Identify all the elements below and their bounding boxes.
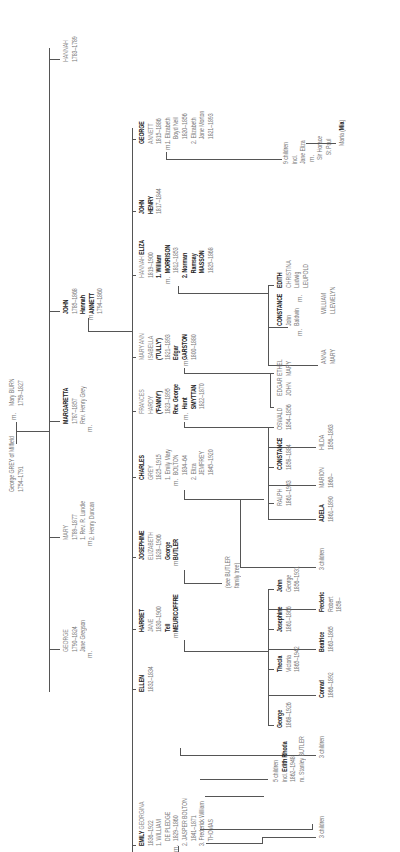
founder-mary-burn: Mary BURN 1759–1827	[8, 379, 25, 406]
child-josephine-1861: Josephine 1861–1866	[276, 606, 293, 632]
person-john-1785: JOHN 1785–1868 Hannah ANNETT 1794–1860	[62, 288, 105, 314]
emily-children-second-marriage: 5 children incl. Edith Rhoda 1862–1948 m…	[272, 736, 306, 782]
person-charles-grey: CHARLES GREY 1825–1915 1. Emily Mary BOL…	[138, 449, 215, 480]
emily-children-first-marriage: 3 children	[318, 736, 327, 758]
butler-tree-reference: (see BUTLER family tree)	[224, 556, 241, 588]
person-george-1790: GEORGE 1790–1824 Jane Gregson	[62, 620, 88, 652]
person-george-annett: GEORGE ANNETT 1815–1886 1. Elizabeth Boy…	[138, 111, 215, 144]
child-ralph: RALPH 1861–1943	[276, 480, 293, 506]
marriage-line	[16, 422, 17, 444]
maria-mia: Maria (Mia)	[338, 120, 347, 146]
gen2-sibling-bar	[132, 134, 133, 852]
person-frances-hardy: FRANCES HARDY ('FANNY') 1823–1895 Rev. G…	[138, 384, 207, 414]
person-hannah-1783: HANNAH 1783–1789	[62, 36, 79, 62]
child-william-llewelyn: WILLIAM LLEWELYN	[320, 287, 337, 314]
family-tree-diagram: George GREY of Milfield 1754–1791 m. Mar…	[0, 0, 400, 852]
person-mary-1789: MARY 1789–1877 1. Rev. R. Lundie 2. Henr…	[62, 501, 96, 540]
sir-horace-st-paul: Sir Horace St Paul	[316, 136, 333, 160]
child-oswald: OSWALD 1854–1856	[276, 404, 293, 430]
gen1-sibling-bar	[49, 48, 50, 692]
person-hannah-eliza: HANNAH ELIZA 1819–1900 1. William MORRIS…	[138, 240, 215, 278]
george-annett-children: 9 children incl. Jane Eliza	[282, 140, 308, 164]
emily-children-third-marriage: 3 children	[318, 816, 327, 838]
person-ellen: ELLEN 1832–1834	[138, 666, 155, 692]
child-john-george: John George 1856–1931	[276, 566, 302, 592]
child-hilda: HILDA 1856–1863	[318, 424, 335, 450]
child-thecla-victoria: Thecla Victoria 1865–1942	[276, 646, 302, 672]
child-anna-mary: ANNA MARY	[320, 349, 337, 364]
child-conrad: Conrad 1866–1892	[318, 672, 335, 698]
charles-children: 3 children	[318, 548, 327, 570]
marriage-label: m.	[10, 413, 19, 420]
child-edith-christina: EDITH CHRISTINA Ludwig LEUPOLD	[276, 260, 310, 288]
person-emily-georgina: EMILY GEORGINA 1836–1922 1. WILLIAM DE P…	[138, 798, 215, 846]
child-frederic-robert: Frederic Robert 1858–	[318, 592, 344, 612]
child-edgar-john: EDGAR JOHN	[276, 378, 293, 396]
child-adela: ADELA 1861–1890	[318, 496, 335, 522]
child-george-1868: George 1868–1926	[276, 702, 293, 728]
person-mary-ann-isabella: MARY ANN ISABELLA ('TULLY') 1821–1893 Ed…	[138, 333, 198, 360]
founder-george-grey: George GREY of Milfield 1754–1791	[8, 436, 25, 492]
person-john-henry: JOHN HENRY 1817–1844	[138, 188, 164, 214]
descent-line	[16, 431, 49, 432]
child-constance-1858: CONSTANCE 1858–1884	[276, 438, 293, 470]
person-margaretta: MARGARETTA 1787–1857 Rev. Henry Grey	[62, 386, 88, 424]
child-marion: MARION 1860–	[318, 467, 335, 488]
person-harriet-jane: HARRIET JANE 1830–1900 Tell MEURICOFFRE	[138, 594, 181, 632]
child-ethel-mary: ETHEL MARY	[276, 359, 293, 376]
person-josephine-elizabeth: JOSEPHINE ELIZABETH 1828–1906 George BUT…	[138, 531, 181, 560]
child-constance-baldwin: CONSTANCE John Baldwin	[276, 294, 302, 326]
child-beatrice: Beatrice 1863–1865	[318, 626, 335, 652]
